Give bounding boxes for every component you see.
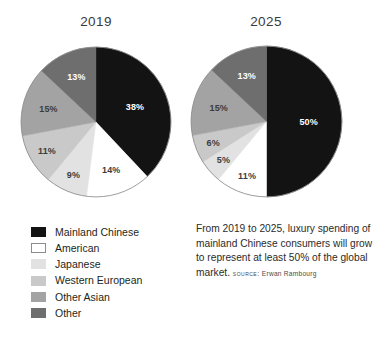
pie-slice-label: 13% bbox=[237, 71, 256, 81]
caption-source: SOURCE: Erwan Rambourg bbox=[233, 270, 317, 277]
pie-chart-2025: 50%11%5%6%15%13% bbox=[188, 43, 345, 200]
pie-slice-label: 5% bbox=[217, 155, 230, 165]
caption-source-kicker: SOURCE: bbox=[233, 269, 260, 278]
pie-slice-label: 11% bbox=[38, 146, 56, 156]
legend-item-label: Western European bbox=[55, 275, 142, 286]
pie-slice-label: 50% bbox=[299, 117, 318, 127]
caption-block: From 2019 to 2025, luxury spending of ma… bbox=[196, 222, 376, 281]
chart-title-right: 2025 bbox=[226, 14, 306, 29]
legend-item[interactable]: Western European bbox=[31, 273, 181, 289]
pie-slice-label: 15% bbox=[39, 104, 57, 114]
pie-slice-label: 9% bbox=[67, 170, 80, 180]
pie-slice-label: 14% bbox=[102, 165, 120, 175]
legend-item[interactable]: Other bbox=[31, 305, 181, 321]
legend-swatch-icon bbox=[31, 243, 46, 253]
pie-slice-label: 13% bbox=[67, 72, 85, 82]
legend-item[interactable]: Japanese bbox=[31, 256, 181, 272]
legend-item-label: American bbox=[55, 243, 99, 254]
legend-swatch-icon bbox=[31, 259, 46, 269]
legend-item-label: Other bbox=[55, 308, 81, 319]
legend-item[interactable]: American bbox=[31, 240, 181, 256]
pie-svg-2025: 50%11%5%6%15%13% bbox=[188, 43, 345, 200]
pie-slices-2019 bbox=[21, 47, 171, 197]
pie-slice-label: 11% bbox=[238, 171, 256, 181]
chart-title-left: 2019 bbox=[56, 14, 136, 29]
pie-slice-label: 38% bbox=[126, 102, 144, 112]
legend-item[interactable]: Mainland Chinese bbox=[31, 224, 181, 240]
legend-item[interactable]: Other Asian bbox=[31, 289, 181, 305]
legend-swatch-icon bbox=[31, 227, 46, 237]
pie-chart-2019: 38%14%9%11%15%13% bbox=[18, 44, 174, 200]
legend-item-label: Other Asian bbox=[55, 292, 110, 303]
legend-swatch-icon bbox=[31, 292, 46, 302]
legend-item-label: Mainland Chinese bbox=[55, 227, 139, 238]
pie-slices-2025 bbox=[191, 46, 342, 197]
legend-item-label: Japanese bbox=[55, 259, 101, 270]
caption-source-name: Erwan Rambourg bbox=[262, 270, 317, 277]
pie-slice-label: 6% bbox=[207, 138, 220, 148]
pie-chart-figure: 2019 2025 38%14%9%11%15%13% 50%11%5%6%15… bbox=[0, 0, 385, 345]
chart-legend: Mainland ChineseAmericanJapaneseWestern … bbox=[31, 224, 181, 321]
legend-swatch-icon bbox=[31, 276, 46, 286]
legend-swatch-icon bbox=[31, 308, 46, 318]
pie-slice-label: 15% bbox=[209, 103, 228, 113]
pie-svg-2019: 38%14%9%11%15%13% bbox=[18, 44, 174, 200]
